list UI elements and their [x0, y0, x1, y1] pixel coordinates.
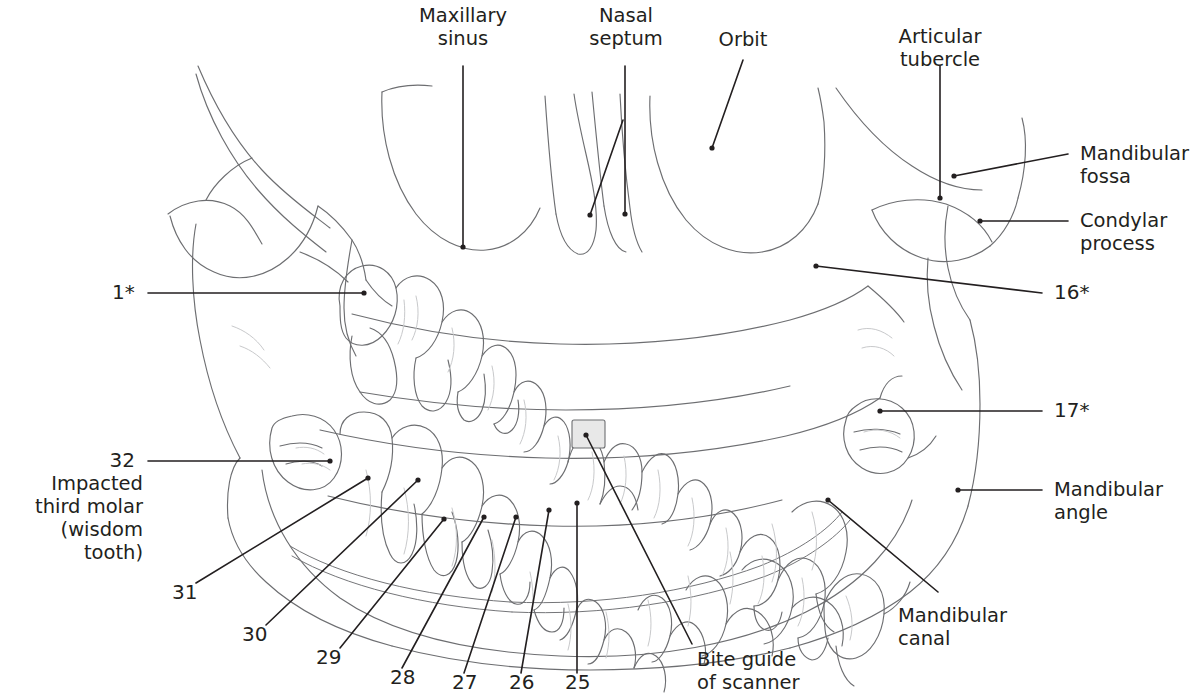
label-tooth-16: 16*	[1054, 281, 1089, 304]
label-maxillary-sinus: Maxillary sinus	[383, 4, 543, 50]
label-bite-guide: Bite guide of scanner	[697, 648, 857, 694]
label-tooth-30: 30	[242, 623, 267, 646]
label-mandibular-angle: Mandibular angle	[1054, 478, 1178, 524]
label-tooth-29: 29	[316, 646, 341, 669]
label-tooth-28: 28	[390, 666, 415, 689]
label-tooth-17: 17*	[1054, 399, 1089, 422]
label-mandibular-canal: Mandibular canal	[898, 604, 1038, 650]
bite-guide-rect	[572, 420, 605, 448]
label-tooth-25: 25	[565, 671, 590, 694]
label-impacted-third-molar: Impacted third molar (wisdom tooth)	[0, 472, 143, 564]
label-tooth-27: 27	[452, 671, 477, 694]
label-tooth-26: 26	[509, 671, 534, 694]
label-articular-tubercle: Articular tubercle	[860, 25, 1020, 71]
label-mandibular-fossa: Mandibular fossa	[1080, 142, 1190, 188]
label-tooth-1: 1*	[112, 281, 135, 304]
label-tooth-32: 32	[0, 449, 135, 472]
label-nasal-septum: Nasal septum	[551, 4, 701, 50]
label-condylar-process: Condylar process	[1080, 209, 1190, 255]
label-tooth-31: 31	[172, 581, 197, 604]
label-orbit: Orbit	[680, 28, 806, 51]
